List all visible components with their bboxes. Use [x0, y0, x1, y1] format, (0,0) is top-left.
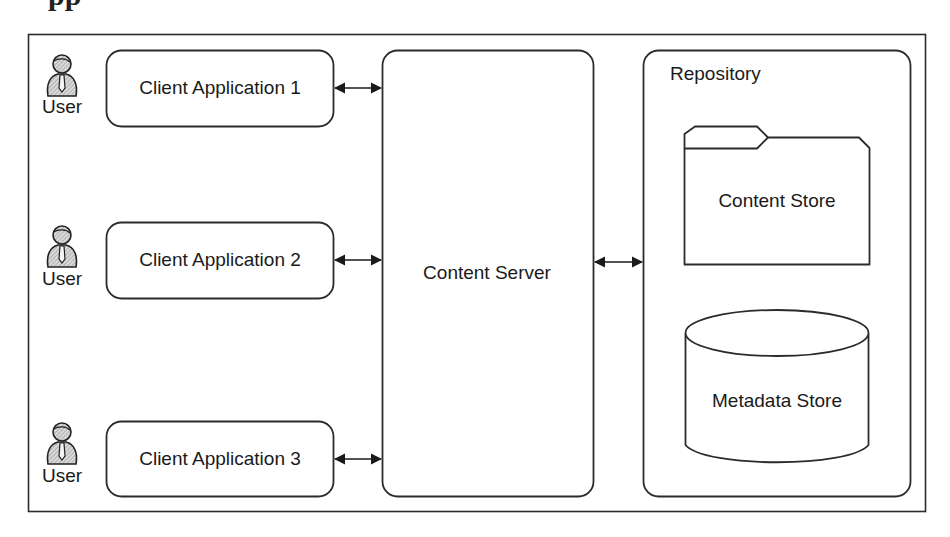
user-icon-1 [47, 55, 76, 96]
content-server-label: Content Server [423, 262, 551, 284]
user-label-1: User [42, 96, 82, 118]
repository-label: Repository [670, 63, 761, 85]
client-application-2: Client Application 2 [139, 249, 301, 271]
client-application-3: Client Application 3 [139, 448, 301, 470]
content-store-label: Content Store [718, 190, 835, 212]
user-icon-2 [47, 226, 76, 267]
user-label-3: User [42, 465, 82, 487]
client-application-1: Client Application 1 [139, 77, 301, 99]
database-cylinder-icon [686, 310, 869, 462]
user-icon-3 [47, 423, 76, 464]
metadata-store-label: Metadata Store [712, 390, 842, 412]
user-label-2: User [42, 268, 82, 290]
